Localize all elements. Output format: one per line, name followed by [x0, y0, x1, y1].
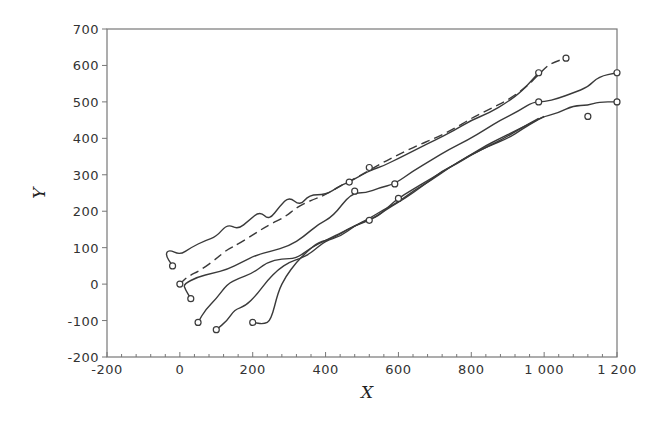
circle-marker	[352, 188, 358, 194]
circle-marker	[250, 319, 256, 325]
circle-marker	[536, 70, 542, 76]
circle-marker	[195, 319, 201, 325]
y-tick-label: 0	[90, 277, 99, 292]
circle-marker	[536, 99, 542, 105]
series-layer	[167, 58, 618, 330]
trajectory-3-line	[184, 73, 617, 299]
x-tick-label: 800	[458, 362, 484, 377]
y-tick-label: 200	[73, 204, 99, 219]
circle-marker	[585, 113, 591, 119]
trajectory-5-line	[216, 117, 544, 330]
x-tick-label: 0	[175, 362, 184, 377]
marker-layer	[170, 55, 620, 333]
x-tick-label: -200	[91, 362, 123, 377]
circle-marker	[563, 55, 569, 61]
circle-marker	[392, 181, 398, 187]
y-tick-label: 500	[73, 95, 99, 110]
circle-marker	[170, 263, 176, 269]
x-tick-label: 600	[385, 362, 411, 377]
circle-marker	[614, 70, 620, 76]
y-tick-label: 100	[73, 241, 99, 256]
x-axis-title: X	[359, 382, 374, 402]
circle-marker	[395, 195, 401, 201]
x-tick-label: 1 200	[597, 362, 637, 377]
circle-marker	[614, 99, 620, 105]
circle-marker	[188, 296, 194, 302]
y-tick-label: 600	[73, 58, 99, 73]
y-axis-title: Y	[29, 186, 49, 199]
trajectory-2-line	[180, 58, 566, 284]
y-tick-label: -100	[67, 314, 99, 329]
x-axis: -20002004006008001 0001 200	[91, 352, 637, 377]
y-tick-label: 300	[73, 168, 99, 183]
circle-marker	[366, 164, 372, 170]
y-axis: -200-1000100200300400500600700	[67, 22, 107, 365]
circle-marker	[213, 327, 219, 333]
circle-marker	[177, 281, 183, 287]
trajectory-1-line	[167, 73, 539, 266]
circle-marker	[366, 217, 372, 223]
x-tick-label: 200	[240, 362, 266, 377]
circle-marker	[346, 179, 352, 185]
x-tick-label: 1 000	[524, 362, 564, 377]
x-tick-label: 400	[312, 362, 338, 377]
trajectory-chart: -200-1000100200300400500600700 -20002004…	[0, 0, 672, 422]
trajectory-6-line	[253, 118, 539, 323]
y-tick-label: 700	[73, 22, 99, 37]
y-tick-label: 400	[73, 131, 99, 146]
